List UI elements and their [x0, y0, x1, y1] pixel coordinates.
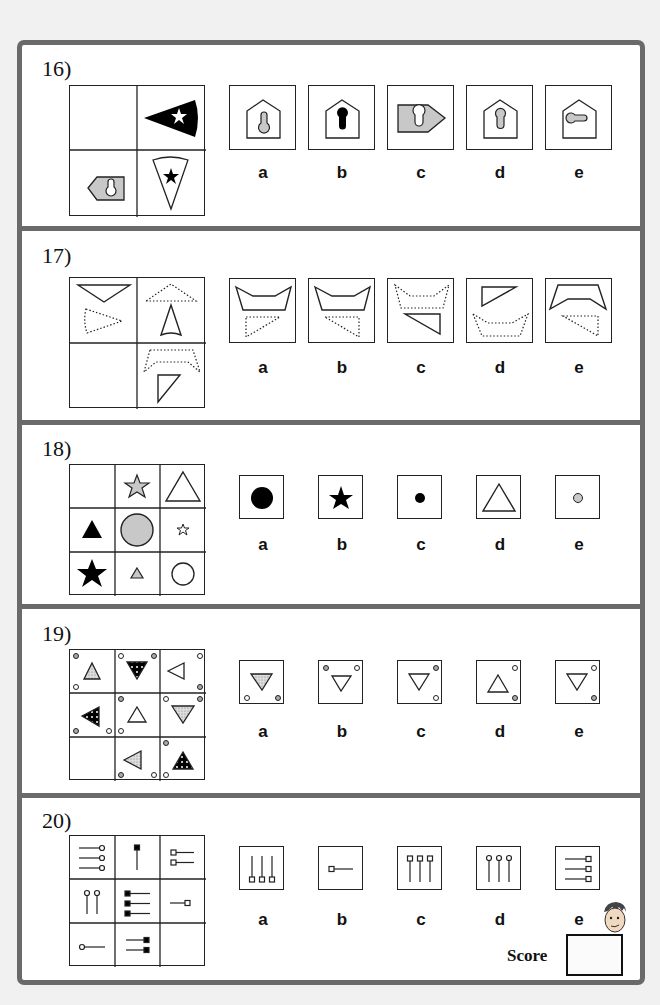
option-b[interactable] [308, 278, 375, 343]
section-divider [17, 420, 645, 425]
option-a[interactable] [229, 278, 296, 343]
option-e[interactable] [555, 475, 600, 519]
score-box[interactable] [566, 934, 623, 976]
option-a[interactable] [229, 85, 296, 150]
option-d[interactable] [466, 278, 533, 343]
puzzle-grid [69, 85, 205, 216]
option-a[interactable] [239, 475, 284, 519]
option-c[interactable] [397, 846, 442, 890]
question-number: 18) [42, 436, 71, 462]
option-label: d [485, 535, 515, 555]
option-label: a [248, 358, 278, 378]
option-label: b [327, 535, 357, 555]
option-label: d [485, 358, 515, 378]
option-b[interactable] [318, 846, 363, 890]
option-label: a [248, 535, 278, 555]
black-sector-icon [144, 100, 198, 137]
option-label: c [406, 722, 436, 742]
option-label: b [327, 163, 357, 183]
option-e[interactable] [555, 660, 600, 704]
section-divider [17, 793, 645, 798]
puzzle-grid [69, 835, 205, 966]
score-label: Score [507, 946, 547, 966]
option-a[interactable] [239, 846, 284, 890]
puzzle-grid [69, 277, 205, 408]
question-number: 17) [42, 243, 71, 269]
option-e[interactable] [545, 85, 612, 150]
option-label: e [564, 910, 594, 930]
section-divider [17, 604, 645, 609]
option-c[interactable] [397, 475, 442, 519]
option-d[interactable] [476, 846, 521, 890]
option-label: e [564, 358, 594, 378]
option-label: c [406, 358, 436, 378]
question-number: 20) [42, 808, 71, 834]
white-sector-icon [153, 157, 188, 209]
option-label: d [485, 722, 515, 742]
question-number: 19) [42, 621, 71, 647]
option-b[interactable] [318, 475, 363, 519]
option-b[interactable] [318, 660, 363, 704]
option-c[interactable] [387, 278, 454, 343]
option-label: a [248, 163, 278, 183]
puzzle-grid [69, 464, 205, 595]
option-label: a [248, 910, 278, 930]
option-c[interactable] [397, 660, 442, 704]
puzzle-grid [69, 649, 205, 780]
option-d[interactable] [476, 475, 521, 519]
option-label: c [406, 163, 436, 183]
option-b[interactable] [308, 85, 375, 150]
option-label: e [564, 535, 594, 555]
gray-tag-icon [88, 177, 124, 200]
option-label: d [485, 163, 515, 183]
option-d[interactable] [476, 660, 521, 704]
option-label: e [564, 163, 594, 183]
option-label: b [327, 722, 357, 742]
option-label: a [248, 722, 278, 742]
option-label: c [406, 910, 436, 930]
option-label: d [485, 910, 515, 930]
option-d[interactable] [466, 85, 533, 150]
option-label: c [406, 535, 436, 555]
option-label: e [564, 722, 594, 742]
question-number: 16) [42, 56, 71, 82]
option-c[interactable] [387, 85, 454, 150]
section-divider [17, 226, 645, 231]
option-e[interactable] [555, 846, 600, 890]
option-label: b [327, 910, 357, 930]
option-label: b [327, 358, 357, 378]
option-a[interactable] [239, 660, 284, 704]
option-e[interactable] [545, 278, 612, 343]
